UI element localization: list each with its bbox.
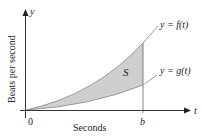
curve-g-label: y = g(t) <box>159 65 191 77</box>
region-s-label: S <box>123 66 129 78</box>
area-between-curves-diagram: y t 0 b Seconds Beats per second y = f(t… <box>0 0 202 138</box>
y-axis-arrow-icon <box>23 9 29 16</box>
curve-f-label: y = f(t) <box>159 19 189 31</box>
y-axis-title: Beats per second <box>6 35 17 103</box>
x-axis-arrow-icon <box>184 108 191 114</box>
x-axis-title: Seconds <box>73 122 106 133</box>
b-label: b <box>140 116 145 127</box>
x-axis-label: t <box>194 105 197 116</box>
y-axis-label: y <box>29 6 35 17</box>
origin-label: 0 <box>28 116 33 127</box>
